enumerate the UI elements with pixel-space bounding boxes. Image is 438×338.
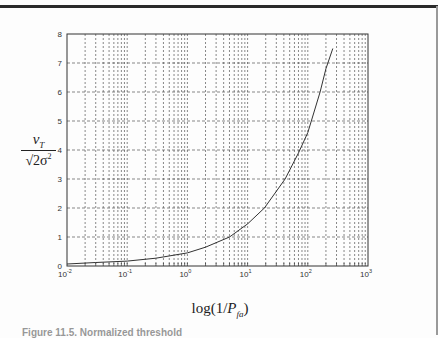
y-axis-label-denominator: √2σ2 — [21, 152, 56, 169]
y-tick-label: 3 — [58, 175, 63, 184]
x-label-post: ) — [244, 300, 249, 316]
x-axis-label: log(1/Pfa) — [150, 300, 290, 319]
x-label-var: P — [227, 300, 236, 316]
figure-caption: Figure 11.5. Normalized threshold — [22, 327, 182, 338]
y-tick-label: 1 — [58, 233, 63, 242]
y-tick-label: 4 — [58, 146, 63, 155]
x-tick-label: 10-1 — [118, 268, 132, 279]
y-axis-label-fraction-bar — [21, 150, 56, 151]
x-tick-label: 10-2 — [58, 268, 72, 279]
y-tick-label: 7 — [58, 59, 63, 68]
x-tick-label: 100 — [179, 268, 191, 279]
data-curve — [67, 49, 333, 265]
y-tick-label: 6 — [58, 88, 63, 97]
x-label-pre: log(1/ — [191, 300, 227, 316]
x-tick-label: 102 — [300, 268, 312, 279]
y-label-sub: T — [39, 140, 44, 150]
y-axis-label-numerator: vT — [21, 131, 56, 150]
y-tick-label: 5 — [58, 117, 63, 126]
y-label-den-text: √2σ — [25, 153, 47, 168]
x-tick-label: 103 — [360, 268, 372, 279]
y-tick-label: 8 — [58, 30, 63, 39]
x-tick-label: 101 — [240, 268, 252, 279]
y-label-den-sup: 2 — [48, 152, 52, 161]
y-tick-label: 2 — [58, 204, 63, 213]
x-label-sub: fa — [237, 309, 244, 319]
